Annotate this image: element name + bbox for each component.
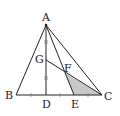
label-f: F [64,62,72,75]
label-b: B [5,89,13,102]
triangle-abc [16,25,102,95]
label-c: C [104,90,112,103]
label-d: D [42,98,51,111]
label-a: A [41,11,51,24]
label-e: E [71,98,79,111]
geometry-diagram: A B C D E G F [0,0,120,116]
label-g: G [35,53,44,66]
point-a-dot [45,24,48,27]
segment-ae [46,25,74,95]
